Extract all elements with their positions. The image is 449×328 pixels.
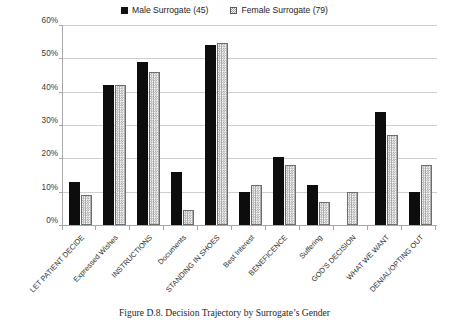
bar-group (199, 25, 233, 225)
bar-male (239, 192, 250, 225)
y-axis-tick-label: 20% (18, 150, 58, 158)
bar-female (387, 135, 398, 225)
bar-group (131, 25, 165, 225)
legend-label-female: Female Surrogate (79) (241, 5, 327, 15)
bar-male (69, 182, 80, 225)
bar-male (273, 157, 284, 225)
y-axis-tick-label: 30% (18, 117, 58, 125)
bar-group (165, 25, 199, 225)
bar-female (347, 192, 358, 225)
x-label-cell: BENEFICENCE (266, 231, 300, 303)
bar-female (149, 72, 160, 225)
x-label-cell: INSTRUCTIONS (130, 231, 164, 303)
bar-female (115, 85, 126, 225)
bar-male (137, 62, 148, 225)
bar-female (319, 202, 330, 225)
x-label-cell: DENIAL/OPTING OUT (402, 231, 436, 303)
bar-female (285, 165, 296, 225)
bar-group (335, 25, 369, 225)
bar-male (409, 192, 420, 225)
bar-female (251, 185, 262, 225)
bar-male (103, 85, 114, 225)
x-axis-tick-label: Suffering (297, 233, 324, 261)
bar-group (267, 25, 301, 225)
bars-group (63, 25, 437, 225)
y-axis-tick-label: 10% (18, 184, 58, 192)
bar-group (301, 25, 335, 225)
bar-group (233, 25, 267, 225)
legend-label-male: Male Surrogate (45) (132, 5, 208, 15)
x-tick-mark (62, 225, 63, 230)
x-tick-mark (435, 225, 436, 230)
chart-legend: Male Surrogate (45) Female Surrogate (79… (0, 2, 449, 18)
bar-group (97, 25, 131, 225)
bar-group (369, 25, 403, 225)
bar-female (421, 165, 432, 225)
bar-male (375, 112, 386, 225)
bar-male (205, 45, 216, 225)
y-axis-tick-label: 60% (18, 17, 58, 25)
legend-swatch-male-icon (121, 7, 128, 14)
y-axis-tick-label: 40% (18, 84, 58, 92)
y-axis-tick-label: 50% (18, 50, 58, 58)
chart-plot-area (62, 25, 437, 226)
figure-caption: Figure D.8. Decision Trajectory by Surro… (0, 307, 449, 318)
bar-group (403, 25, 437, 225)
bar-male (171, 172, 182, 225)
legend-entry-female: Female Surrogate (79) (230, 5, 327, 15)
x-axis-labels: LET PATIENT DECIDEExpressed WishesINSTRU… (62, 231, 436, 303)
legend-swatch-female-icon (230, 7, 237, 14)
bar-male (307, 185, 318, 225)
bar-group (63, 25, 97, 225)
x-axis-tick-label: LET PATIENT DECIDE (28, 233, 86, 294)
bar-female (183, 210, 194, 225)
bar-female (217, 43, 228, 225)
legend-entry-male: Male Surrogate (45) (121, 5, 208, 15)
y-axis-tick-label: 0% (18, 217, 58, 225)
bar-female (81, 195, 92, 225)
